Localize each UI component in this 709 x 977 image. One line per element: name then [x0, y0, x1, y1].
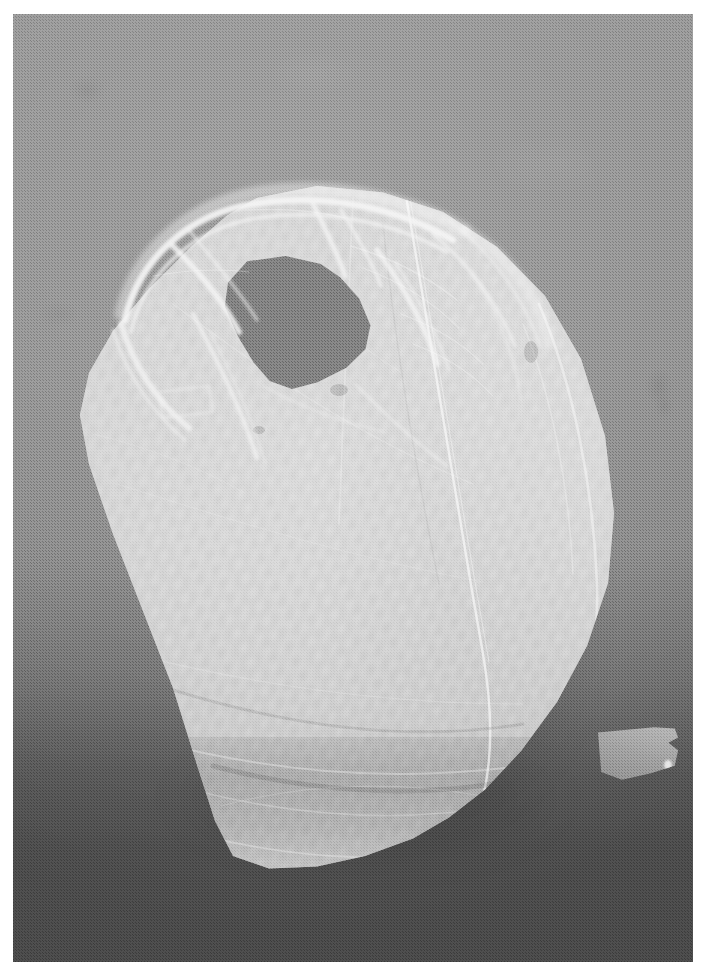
bag-side-tab — [598, 726, 678, 790]
photograph — [13, 14, 693, 962]
photo-frame: translucent white plastic shopping bag s… — [0, 0, 709, 977]
plastic-bag — [13, 14, 693, 962]
bag-crease-lines — [53, 184, 653, 884]
bag-body-panel — [53, 184, 653, 884]
